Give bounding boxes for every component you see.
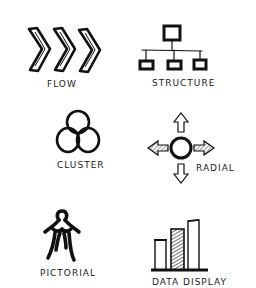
bar-chart-icon xyxy=(148,218,214,274)
cluster-label: CLUSTER xyxy=(57,160,105,170)
radial-label: RADIAL xyxy=(196,163,235,173)
structure-panel: STRUCTURE xyxy=(128,0,256,96)
structure-label: STRUCTURE xyxy=(152,78,215,88)
flow-panel: FLOW xyxy=(0,0,128,96)
pictorial-label: PICTORIAL xyxy=(40,268,96,278)
pictorial-panel: PICTORIAL xyxy=(0,192,128,288)
triple-chevron-right-icon xyxy=(26,26,106,76)
human-figure-icon xyxy=(42,208,84,264)
circle-with-four-arrows-icon xyxy=(146,110,216,186)
data-display-label: DATA DISPLAY xyxy=(152,277,227,287)
cluster-panel: CLUSTER xyxy=(0,96,128,192)
three-overlapping-circles-icon xyxy=(52,108,104,156)
org-chart-hierarchy-icon xyxy=(136,22,212,74)
data-display-panel: DATA DISPLAY xyxy=(128,192,256,288)
radial-panel: RADIAL xyxy=(128,96,256,192)
flow-label: FLOW xyxy=(47,79,77,89)
